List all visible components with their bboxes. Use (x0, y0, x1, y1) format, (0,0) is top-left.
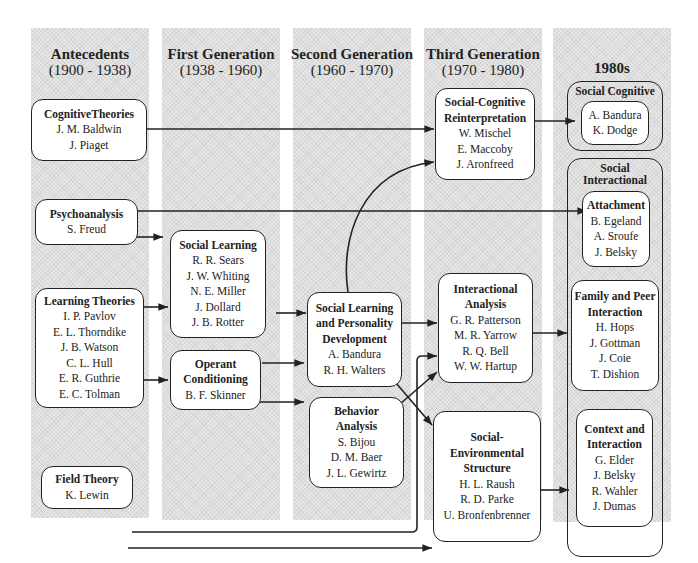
node-psychoanalysis: Psychoanalysis S. Freud (35, 199, 138, 245)
node-person: G. R. Patterson (439, 313, 532, 329)
node-person: J. B. Watson (36, 340, 143, 356)
node-title: Social-Cognitive (436, 95, 534, 111)
node-social-cognitive-1980s: A. Bandura K. Dodge (581, 101, 649, 145)
node-title: Reinterpretation (436, 111, 534, 127)
group-label: Social Cognitive (568, 85, 662, 97)
node-person: B. Egeland (583, 214, 649, 230)
node-person: J. Belsky (583, 245, 649, 261)
node-person: D. M. Baer (310, 450, 403, 466)
header-second-generation: Second Generation (1960 - 1970) (290, 46, 414, 78)
node-person: A. Sroufe (583, 229, 649, 245)
node-person: R. Wahler (577, 484, 652, 500)
node-title: Operant (171, 357, 260, 373)
node-title: Conditioning (171, 372, 260, 388)
node-title: Psychoanalysis (36, 207, 137, 223)
node-person: J. Aronfreed (436, 157, 534, 173)
node-title: Social- (434, 430, 540, 446)
node-person: H. L. Raush (434, 477, 540, 493)
node-person: J. Dumas (577, 499, 652, 515)
node-title: Family and Peer (572, 289, 658, 305)
node-title: Development (308, 332, 401, 348)
column-title: 1980s (553, 60, 671, 76)
node-person: N. E. Miller (171, 284, 265, 300)
column-period: (1960 - 1970) (290, 62, 414, 78)
node-person: T. Dishion (572, 367, 658, 383)
node-learning-theories: Learning Theories I. P. Pavlov E. L. Tho… (35, 288, 144, 408)
node-social-environmental-structure: Social- Environmental Structure H. L. Ra… (433, 411, 541, 542)
node-person: R. D. Parke (434, 492, 540, 508)
node-title: CognitiveTheories (32, 107, 146, 123)
node-title: Environmental (434, 446, 540, 462)
node-person: J. Piaget (32, 138, 146, 154)
node-person: A. Bandura (582, 108, 648, 124)
group-label: Social Interactional (568, 162, 662, 186)
node-person: E. R. Guthrie (36, 371, 143, 387)
node-social-learning-personality-development: Social Learning and Personality Developm… (307, 292, 402, 387)
node-person: W. W. Hartup (439, 359, 532, 375)
node-title: Structure (434, 461, 540, 477)
header-antecedents: Antecedents (1900 - 1938) (31, 46, 149, 78)
column-title: Third Generation (424, 46, 542, 62)
header-first-generation: First Generation (1938 - 1960) (162, 46, 280, 78)
node-person: S. Bijou (310, 435, 403, 451)
node-operant-conditioning: Operant Conditioning B. F. Skinner (170, 350, 261, 410)
node-person: J. Dollard (171, 300, 265, 316)
node-person: R. R. Sears (171, 253, 265, 269)
node-title: Interaction (577, 437, 652, 453)
node-title: Analysis (439, 297, 532, 313)
node-person: G. Elder (577, 453, 652, 469)
column-period: (1900 - 1938) (31, 62, 149, 78)
node-person: E. Maccoby (436, 142, 534, 158)
node-person: K. Lewin (42, 488, 132, 504)
node-person: J. Belsky (577, 468, 652, 484)
node-person: S. Freud (36, 222, 137, 238)
node-person: J. Coie (572, 351, 658, 367)
node-person: E. L. Thorndike (36, 325, 143, 341)
node-social-cognitive-reinterpretation: Social-Cognitive Reinterpretation W. Mis… (435, 88, 535, 180)
node-person: U. Bronfenbrenner (434, 508, 540, 524)
node-person: B. F. Skinner (171, 388, 260, 404)
node-person: J. L. Gewirtz (310, 466, 403, 482)
node-title: and Personality (308, 316, 401, 332)
node-title: Analysis (310, 419, 403, 435)
node-title: Social Learning (171, 238, 265, 254)
node-title: Social Learning (308, 301, 401, 317)
node-title: Interaction (572, 305, 658, 321)
node-title: Behavior (310, 404, 403, 420)
header-third-generation: Third Generation (1970 - 1980) (424, 46, 542, 78)
node-title: Field Theory (42, 472, 132, 488)
node-title: Context and (577, 422, 652, 438)
node-title: Attachment (583, 198, 649, 214)
node-person: H. Hops (572, 320, 658, 336)
header-1980s: 1980s (553, 60, 671, 76)
node-title: Learning Theories (36, 294, 143, 310)
column-period: (1938 - 1960) (162, 62, 280, 78)
column-title: Antecedents (31, 46, 149, 62)
node-person: J. W. Whiting (171, 269, 265, 285)
node-person: M. R. Yarrow (439, 328, 532, 344)
column-title: Second Generation (290, 46, 414, 62)
node-person: R. Q. Bell (439, 344, 532, 360)
node-context-interaction: Context and Interaction G. Elder J. Bels… (576, 409, 653, 527)
node-title: Interactional (439, 282, 532, 298)
node-person: C. L. Hull (36, 356, 143, 372)
node-person: E. C. Tolman (36, 387, 143, 403)
node-cognitive-theories: CognitiveTheories J. M. Baldwin J. Piage… (31, 99, 147, 161)
node-interactional-analysis: Interactional Analysis G. R. Patterson M… (438, 273, 533, 383)
column-title: First Generation (162, 46, 280, 62)
node-behavior-analysis: Behavior Analysis S. Bijou D. M. Baer J.… (309, 397, 404, 488)
node-person: J. Gottman (572, 336, 658, 352)
node-person: A. Bandura (308, 347, 401, 363)
node-person: J. M. Baldwin (32, 122, 146, 138)
node-attachment: Attachment B. Egeland A. Sroufe J. Belsk… (582, 191, 650, 267)
node-social-learning: Social Learning R. R. Sears J. W. Whitin… (170, 230, 266, 338)
node-person: K. Dodge (582, 123, 648, 139)
node-person: J. B. Rotter (171, 315, 265, 331)
node-person: W. Mischel (436, 126, 534, 142)
column-period: (1970 - 1980) (424, 62, 542, 78)
node-field-theory: Field Theory K. Lewin (41, 466, 133, 509)
node-person: I. P. Pavlov (36, 309, 143, 325)
node-family-peer-interaction: Family and Peer Interaction H. Hops J. G… (571, 280, 659, 391)
node-person: R. H. Walters (308, 363, 401, 379)
